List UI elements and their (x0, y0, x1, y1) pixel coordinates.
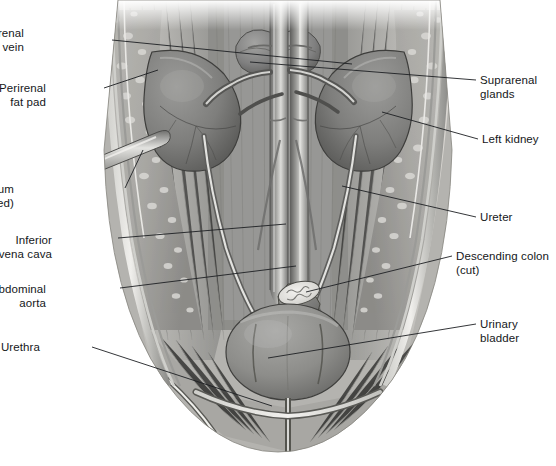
label-ureter: Ureter (480, 211, 513, 225)
label-line: Suprarenal (480, 74, 537, 88)
label-line: (cut) (456, 264, 549, 278)
anatomy-illustration (0, 0, 556, 466)
label-line: glands (480, 88, 537, 102)
label-perirenal-fat-pad: Perirenalfat pad (0, 82, 46, 109)
label-line: Urinary (480, 318, 519, 332)
illustration-canvas: Right renalartery and veinPerirenalfat p… (0, 0, 556, 466)
label-line: Left kidney (482, 133, 539, 147)
label-line: bladder (480, 332, 519, 346)
label-suprarenal-glands: Suprarenalglands (480, 74, 537, 101)
label-line: Right renal (0, 27, 24, 41)
label-line: Abdominal (0, 283, 46, 297)
label-line: Ureter (480, 211, 513, 225)
label-line: aorta (0, 297, 46, 311)
label-line: vena cava (0, 248, 52, 262)
label-line: Inferior (0, 234, 52, 248)
label-urinary-bladder: Urinarybladder (480, 318, 519, 345)
label-abdominal-aorta: Abdominalaorta (0, 283, 46, 310)
label-descending-colon-cut: Descending colon(cut) (456, 250, 549, 277)
label-left-kidney: Left kidney (482, 133, 539, 147)
label-urethra: Urethra (1, 341, 40, 355)
label-inferior-vena-cava: Inferiorvena cava (0, 234, 52, 261)
label-line: Peritoneum (0, 183, 14, 197)
label-line: Descending colon (456, 250, 549, 264)
label-line: (cut and reflected) (0, 197, 14, 211)
inferior-vena-cava (270, 0, 288, 306)
label-line: fat pad (0, 96, 46, 110)
label-line: Perirenal (0, 82, 46, 96)
label-line: Urethra (1, 341, 40, 355)
label-right-renal-artery-and-vein: Right renalartery and vein (0, 27, 24, 54)
label-peritoneum-cut-and-reflected: Peritoneum(cut and reflected) (0, 183, 14, 210)
label-line: artery and vein (0, 41, 24, 55)
